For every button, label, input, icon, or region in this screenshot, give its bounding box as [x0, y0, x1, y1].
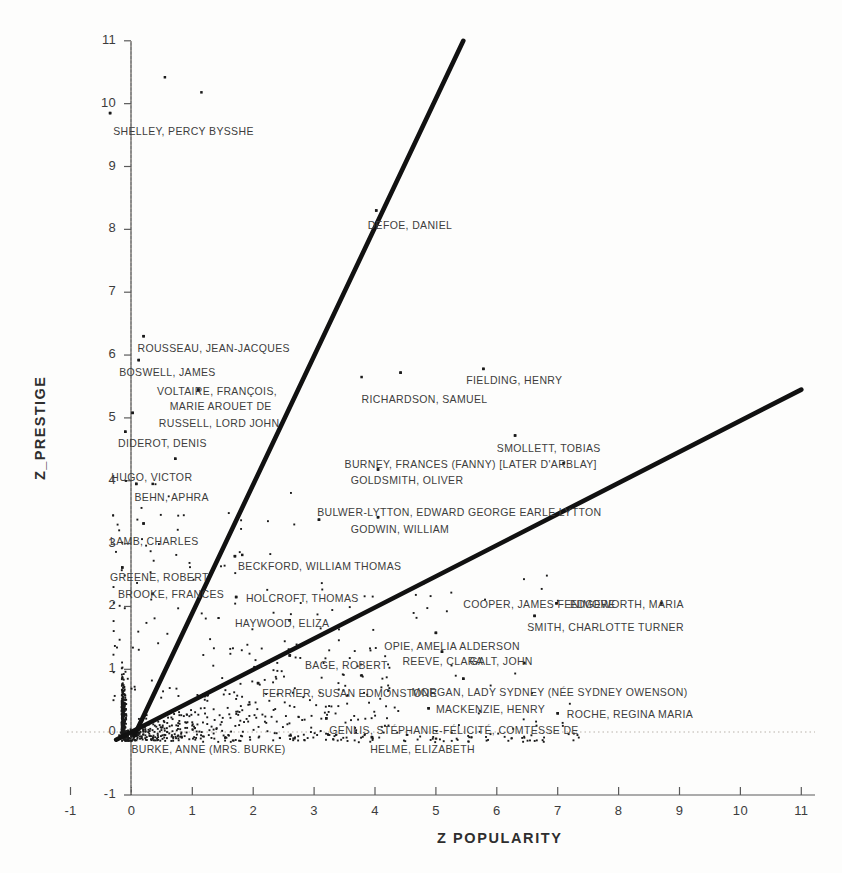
- scatter-point: [162, 725, 164, 727]
- scatter-point: [324, 712, 326, 714]
- scatter-point-labelled: [174, 458, 177, 461]
- scatter-point: [451, 740, 453, 742]
- scatter-point: [145, 730, 147, 732]
- point-label: MARIE AROUET DE: [170, 400, 272, 412]
- scatter-point: [235, 739, 237, 741]
- point-label: BEHN, APHRA: [134, 491, 208, 503]
- x-axis-tick-marks: [71, 787, 802, 795]
- scatter-point: [372, 739, 374, 741]
- scatter-point-labelled: [482, 368, 485, 371]
- scatter-point: [521, 737, 523, 739]
- scatter-point: [119, 605, 121, 607]
- scatter-point: [368, 702, 370, 704]
- scatter-point: [122, 687, 124, 689]
- scatter-point: [326, 714, 328, 716]
- scatter-point: [173, 713, 175, 715]
- scatter-point: [164, 740, 166, 742]
- scatter-point-labelled: [124, 430, 127, 433]
- scatter-point: [394, 707, 396, 709]
- scatter-point: [266, 589, 268, 591]
- scatter-point: [160, 726, 162, 728]
- scatter-point: [166, 727, 168, 729]
- scatter-point: [121, 662, 123, 664]
- x-tick-label: 6: [472, 803, 522, 818]
- scatter-point: [275, 678, 277, 680]
- scatter-point: [156, 739, 158, 741]
- scatter-point: [328, 711, 330, 713]
- scatter-point: [229, 693, 231, 695]
- scatter-point: [527, 740, 529, 742]
- y-tick-label: 8: [70, 220, 116, 235]
- scatter-point-labelled: [288, 654, 291, 657]
- scatter-point: [268, 700, 270, 702]
- scatter-point: [150, 735, 152, 737]
- point-label: GENLIS, STÉPHANIE-FÉLICITÉ, COMTESSE DE: [329, 724, 578, 736]
- scatter-point: [200, 734, 202, 736]
- scatter-point: [415, 594, 417, 596]
- scatter-point: [303, 734, 305, 736]
- scatter-point: [230, 717, 232, 719]
- scatter-point-labelled: [109, 112, 112, 115]
- scatter-point: [292, 739, 294, 741]
- scatter-point: [288, 722, 290, 724]
- scatter-point: [151, 680, 153, 682]
- scatter-point: [388, 667, 390, 669]
- scatter-point: [229, 653, 231, 655]
- scatter-point: [142, 734, 144, 736]
- scatter-point: [213, 738, 215, 740]
- scatter-point: [157, 642, 159, 644]
- scatter-point: [354, 739, 356, 741]
- scatter-point: [188, 738, 190, 740]
- scatter-point: [337, 705, 339, 707]
- scatter-point: [144, 734, 146, 736]
- scatter-point: [132, 739, 134, 741]
- scatter-point: [247, 721, 249, 723]
- scatter-point: [176, 688, 178, 690]
- scatter-point: [200, 707, 202, 709]
- scatter-point: [134, 686, 136, 688]
- scatter-point: [378, 737, 380, 739]
- scatter-point: [136, 738, 138, 740]
- scatter-point: [121, 667, 123, 669]
- scatter-point: [125, 671, 127, 673]
- scatter-point: [251, 680, 253, 682]
- scatter-point: [152, 737, 154, 739]
- scatter-point-named: [360, 376, 363, 379]
- scatter-point: [248, 715, 250, 717]
- scatter-point: [235, 698, 237, 700]
- scatter-point: [185, 722, 187, 724]
- scatter-point: [242, 731, 244, 733]
- scatter-point: [170, 740, 172, 742]
- scatter-point: [159, 740, 161, 742]
- scatter-point: [191, 725, 193, 727]
- scatter-point: [213, 647, 215, 649]
- scatter-point: [127, 738, 129, 740]
- scatter-point: [282, 726, 284, 728]
- point-label: SHELLEY, PERCY BYSSHE: [113, 125, 254, 137]
- scatter-point-named: [164, 76, 167, 79]
- scatter-point: [249, 736, 251, 738]
- x-tick-label: 10: [715, 803, 765, 818]
- scatter-point: [294, 738, 296, 740]
- scatter-point: [573, 739, 575, 741]
- scatter-point: [372, 629, 374, 631]
- scatter-point: [337, 740, 339, 742]
- scatter-point: [195, 737, 197, 739]
- scatter-point: [142, 729, 144, 731]
- scatter-point: [266, 730, 268, 732]
- y-tick-label: 2: [70, 597, 116, 612]
- scatter-point: [211, 726, 213, 728]
- scatter-point-labelled: [142, 522, 145, 525]
- scatter-point: [213, 708, 215, 710]
- scatter-plot-figure: -101234567891011 -101234567891011 Z POPU…: [0, 0, 842, 873]
- scatter-point: [177, 734, 179, 736]
- scatter-point: [535, 721, 537, 723]
- scatter-point: [139, 738, 141, 740]
- scatter-point: [240, 519, 242, 521]
- scatter-point: [178, 720, 180, 722]
- scatter-point: [132, 647, 134, 649]
- scatter-point: [137, 631, 139, 633]
- scatter-point: [121, 740, 123, 742]
- scatter-point: [180, 714, 182, 716]
- point-label: VOLTAIRE, FRANÇOIS,: [157, 385, 277, 397]
